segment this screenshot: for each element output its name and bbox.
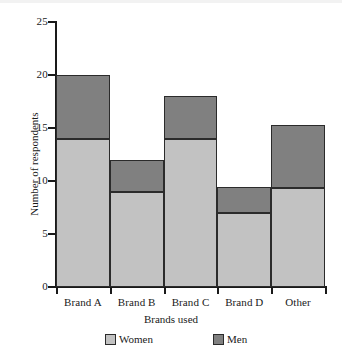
y-axis-title-wrapper: Number of respondents [14,20,34,280]
bar-segment-men [56,75,110,139]
bar-segment-women [271,188,325,287]
bar-segment-men [164,96,218,138]
legend-item-women: Women [105,333,153,345]
x-axis-title: Brands used [0,313,342,325]
legend-item-men: Men [213,333,247,345]
bar-group [110,22,164,287]
y-tick-mark [48,180,56,182]
y-tick-mark [48,233,56,235]
bar-segment-men [271,125,325,189]
y-tick-mark [48,21,56,23]
bar-segment-women [56,139,110,287]
y-axis-title: Number of respondents [28,64,40,264]
legend-label-women: Women [119,333,153,345]
x-tick-mark [110,286,112,294]
legend-swatch-men-icon [213,334,224,345]
x-category-label: Other [263,296,333,308]
legend-swatch-women-icon [105,334,116,345]
y-tick-mark [48,286,56,288]
x-tick-mark [271,286,273,294]
bar-segment-men [217,187,271,212]
bar-group [56,22,110,287]
bar-group [164,22,218,287]
x-tick-mark [56,286,58,294]
bar-segment-men [110,160,164,192]
x-tick-mark [325,286,327,294]
bar-segment-women [164,139,218,287]
x-tick-mark [164,286,166,294]
chart-legend: Women Men [0,333,342,353]
legend-label-men: Men [227,333,247,345]
y-tick-label: 0 [8,281,48,292]
stacked-bar-chart: 0510152025 Brand ABrand BBrand CBrand DO… [0,0,342,360]
bar-segment-women [217,213,271,287]
x-tick-mark [217,286,219,294]
y-tick-mark [48,127,56,129]
bar-group [217,22,271,287]
bar-segment-women [110,192,164,287]
bar-group [271,22,325,287]
plot-area [56,22,325,287]
scan-edge-artifact [0,0,342,3]
y-tick-mark [48,74,56,76]
